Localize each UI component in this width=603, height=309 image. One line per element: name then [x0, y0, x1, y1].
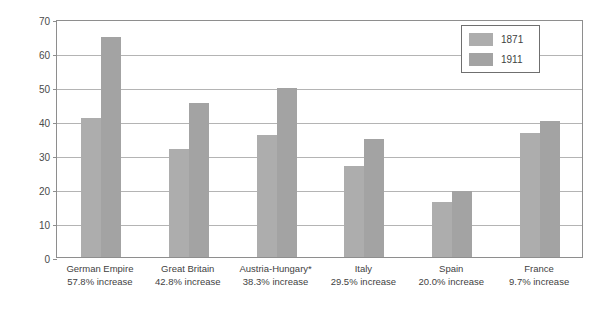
bar — [169, 149, 189, 257]
y-tick-label: 60 — [39, 50, 50, 61]
y-tick-mark — [53, 191, 57, 192]
y-tick-mark — [53, 259, 57, 260]
bar — [257, 135, 277, 257]
y-tick-label: 20 — [39, 186, 50, 197]
y-tick-mark — [53, 225, 57, 226]
y-tick-label: 10 — [39, 220, 50, 231]
y-tick-label: 30 — [39, 152, 50, 163]
y-tick-mark — [53, 89, 57, 90]
bar-group — [81, 21, 121, 257]
x-axis-label: France9.7% increase — [479, 263, 599, 288]
y-tick-mark — [53, 55, 57, 56]
y-tick-label: 40 — [39, 118, 50, 129]
bar-group — [169, 21, 209, 257]
legend-label-1911: 1911 — [501, 54, 523, 65]
y-tick-label: 70 — [39, 16, 50, 27]
x-axis-label-sublabel: 9.7% increase — [479, 276, 599, 289]
y-tick-mark — [53, 123, 57, 124]
bar — [101, 37, 121, 257]
legend-label-1871: 1871 — [501, 34, 523, 45]
legend-swatch-1871 — [469, 33, 493, 46]
bar — [520, 133, 540, 257]
bar-group — [257, 21, 297, 257]
legend-swatch-1911 — [469, 53, 493, 66]
gridline — [57, 157, 582, 158]
bar — [344, 166, 364, 257]
gridline — [57, 225, 582, 226]
legend: 1871 1911 — [461, 25, 540, 73]
gridline — [57, 191, 582, 192]
bar — [364, 139, 384, 257]
grouped-bar-chart: Population (millions) 010203040506070 Ge… — [0, 0, 603, 309]
bar — [432, 202, 452, 257]
gridline — [57, 123, 582, 124]
bar — [81, 118, 101, 257]
bar — [540, 121, 560, 257]
bar — [189, 103, 209, 257]
y-tick-mark — [53, 21, 57, 22]
legend-item-1911: 1911 — [469, 52, 523, 66]
x-axis-label-name: France — [479, 263, 599, 276]
y-tick-label: 50 — [39, 84, 50, 95]
gridline — [57, 89, 582, 90]
legend-item-1871: 1871 — [469, 32, 523, 46]
y-tick-mark — [53, 157, 57, 158]
bar — [277, 88, 297, 257]
bar-group — [344, 21, 384, 257]
bar — [452, 191, 472, 257]
